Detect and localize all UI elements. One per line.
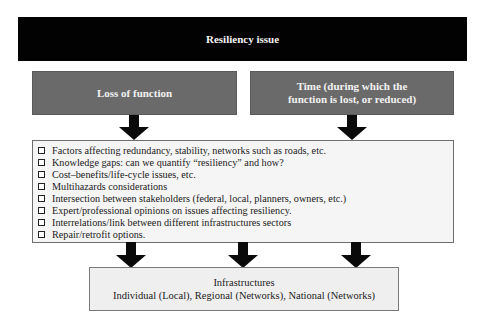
time-label: Time (during which the function is lost,… — [277, 80, 427, 106]
infrastructures-box: Infrastructures Individual (Local), Regi… — [89, 267, 399, 311]
list-item-label: Repair/retrofit options. — [52, 229, 145, 240]
loss-of-function-label: Loss of function — [97, 87, 172, 100]
resiliency-issue-label: Resiliency issue — [206, 33, 279, 45]
arrow-down-icon — [116, 242, 146, 268]
list-item: Intersection between stakeholders (feder… — [36, 192, 453, 204]
list-item-label: Intersection between stakeholders (feder… — [52, 193, 346, 204]
list-item: Cost–benefits/life-cycle issues, etc. — [36, 168, 453, 180]
checkbox-bullet-icon — [38, 207, 45, 214]
list-item: Interrelations/link between different in… — [36, 216, 453, 228]
list-item: Knowledge gaps: can we quantify “resilie… — [36, 156, 453, 168]
considerations-list: Factors affecting redundancy, stability,… — [32, 140, 454, 243]
list-item: Expert/professional opinions on issues a… — [36, 204, 453, 216]
checkbox-bullet-icon — [38, 231, 45, 238]
list-item: Factors affecting redundancy, stability,… — [36, 144, 453, 156]
checkbox-bullet-icon — [38, 171, 45, 178]
arrow-down-icon — [228, 242, 258, 268]
list-item-label: Multihazards considerations — [52, 181, 167, 192]
arrow-down-icon — [119, 115, 149, 141]
checkbox-bullet-icon — [38, 195, 45, 202]
list-item: Repair/retrofit options. — [36, 228, 453, 240]
list-item: Multihazards considerations — [36, 180, 453, 192]
list-item-label: Factors affecting redundancy, stability,… — [52, 145, 326, 156]
infrastructures-title: Infrastructures — [213, 276, 274, 289]
arrow-down-icon — [341, 242, 371, 268]
checkbox-bullet-icon — [38, 159, 45, 166]
resiliency-issue-box: Resiliency issue — [18, 17, 467, 61]
checkbox-bullet-icon — [38, 183, 45, 190]
list-item-label: Interrelations/link between different in… — [52, 217, 291, 228]
time-box: Time (during which the function is lost,… — [250, 71, 454, 115]
arrow-down-icon — [337, 115, 367, 141]
list-item-label: Cost–benefits/life-cycle issues, etc. — [52, 169, 196, 180]
checkbox-bullet-icon — [38, 219, 45, 226]
checkbox-bullet-icon — [38, 147, 45, 154]
loss-of-function-box: Loss of function — [32, 71, 237, 115]
list-item-label: Expert/professional opinions on issues a… — [52, 205, 292, 216]
infrastructures-levels: Individual (Local), Regional (Networks),… — [113, 289, 375, 302]
list-item-label: Knowledge gaps: can we quantify “resilie… — [52, 157, 284, 168]
